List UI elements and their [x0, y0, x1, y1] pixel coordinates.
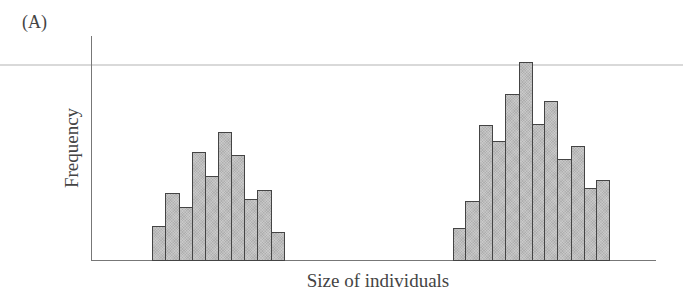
- guide-line: [0, 64, 683, 66]
- histogram-bar: [231, 155, 245, 261]
- histogram-bar: [544, 101, 558, 261]
- y-axis-label: Frequency: [61, 108, 83, 188]
- histogram-bar: [218, 132, 232, 261]
- histogram-bar: [271, 232, 285, 261]
- histogram-bar: [571, 146, 585, 261]
- histogram-bar: [557, 159, 572, 261]
- histogram-bar: [505, 94, 520, 261]
- histogram-bar: [519, 62, 533, 261]
- histogram-bar: [492, 141, 506, 261]
- histogram-bar: [192, 152, 206, 261]
- histogram-bar: [179, 207, 193, 261]
- histogram-bar: [596, 180, 610, 261]
- histogram-bar: [165, 193, 180, 261]
- histogram-bar: [257, 190, 272, 261]
- x-axis-label: Size of individuals: [307, 270, 449, 292]
- panel-label: (A): [22, 12, 47, 33]
- histogram-bar: [152, 226, 166, 261]
- y-axis: [91, 36, 92, 261]
- histogram-bar: [244, 199, 258, 261]
- histogram-bar: [479, 125, 493, 261]
- histogram-bar: [465, 201, 480, 261]
- histogram-bar: [205, 176, 219, 261]
